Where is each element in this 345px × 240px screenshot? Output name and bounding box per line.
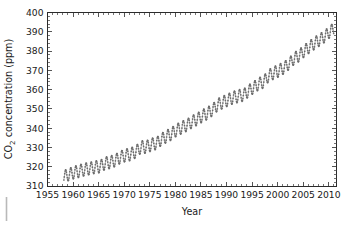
data-point xyxy=(198,112,200,114)
data-point xyxy=(86,167,88,169)
data-point xyxy=(289,63,291,65)
data-point xyxy=(160,145,162,147)
data-point xyxy=(91,163,93,165)
data-point xyxy=(112,163,114,165)
data-point xyxy=(78,174,80,176)
data-point xyxy=(140,150,142,152)
data-point xyxy=(301,49,303,51)
data-point xyxy=(278,70,280,72)
data-point xyxy=(311,39,313,41)
data-point xyxy=(199,116,201,118)
data-point xyxy=(217,101,219,103)
data-point xyxy=(233,94,235,96)
data-point xyxy=(268,72,270,74)
data-point xyxy=(134,157,136,159)
data-point xyxy=(78,176,80,178)
data-point xyxy=(189,125,191,127)
data-point xyxy=(130,157,132,159)
data-point xyxy=(216,108,218,110)
y-axis-title-suffix: concentration (ppm) xyxy=(3,39,14,141)
data-point xyxy=(111,155,113,157)
x-tick-label: 1965 xyxy=(87,189,111,200)
data-point xyxy=(332,28,334,30)
data-point xyxy=(278,73,280,75)
data-point xyxy=(133,154,135,156)
data-point xyxy=(277,76,279,78)
data-point xyxy=(263,84,265,86)
data-point xyxy=(109,162,111,164)
data-point xyxy=(324,39,326,41)
data-point xyxy=(74,172,76,174)
data-point xyxy=(127,153,129,155)
data-point xyxy=(161,136,163,138)
data-point xyxy=(69,171,71,173)
data-point xyxy=(156,143,158,145)
data-point xyxy=(79,171,81,173)
data-point xyxy=(280,65,282,67)
data-point xyxy=(271,76,273,78)
data-point xyxy=(253,84,255,86)
data-point xyxy=(189,122,191,124)
data-point xyxy=(325,32,327,34)
data-point xyxy=(107,161,109,163)
data-point xyxy=(302,54,304,56)
data-point xyxy=(63,176,65,178)
data-point xyxy=(254,80,256,82)
data-point xyxy=(65,169,67,171)
data-point xyxy=(281,70,283,72)
data-point xyxy=(296,55,298,57)
data-point xyxy=(148,147,150,149)
data-point xyxy=(141,144,143,146)
data-point xyxy=(227,100,229,102)
data-point xyxy=(260,81,262,83)
data-point xyxy=(330,28,332,30)
data-point xyxy=(298,58,300,60)
data-point xyxy=(247,96,249,98)
data-point xyxy=(128,156,130,158)
data-point xyxy=(270,70,272,72)
data-point xyxy=(268,79,270,81)
data-point xyxy=(87,170,89,172)
data-point xyxy=(318,45,320,47)
data-point xyxy=(185,130,187,132)
data-point xyxy=(153,140,155,142)
data-point xyxy=(212,106,214,108)
data-point xyxy=(94,170,96,172)
data-point xyxy=(250,88,252,90)
data-point xyxy=(316,37,318,39)
data-point xyxy=(155,148,157,150)
data-point xyxy=(314,46,316,48)
data-point xyxy=(286,64,288,66)
data-point xyxy=(194,119,196,121)
data-point xyxy=(66,174,68,176)
data-point xyxy=(188,118,190,120)
data-point xyxy=(191,122,193,124)
data-point xyxy=(86,165,88,167)
data-point xyxy=(71,169,73,171)
data-point xyxy=(204,110,206,112)
data-point xyxy=(178,123,180,125)
data-point xyxy=(225,100,227,102)
data-point xyxy=(190,127,192,129)
data-point xyxy=(288,66,290,68)
data-point xyxy=(256,87,258,89)
data-point xyxy=(191,125,193,127)
data-point xyxy=(89,165,91,167)
data-point xyxy=(227,103,229,105)
data-point xyxy=(121,150,123,152)
data-point xyxy=(196,122,198,124)
data-point xyxy=(266,79,268,81)
data-point xyxy=(186,128,188,130)
data-point xyxy=(89,171,91,173)
data-point xyxy=(313,48,315,50)
data-point xyxy=(272,78,274,80)
data-point xyxy=(219,97,221,99)
data-point xyxy=(101,161,103,163)
data-point xyxy=(153,145,155,147)
data-point xyxy=(183,122,185,124)
data-point xyxy=(332,30,334,32)
data-point xyxy=(235,95,237,97)
data-point xyxy=(94,167,96,169)
data-point xyxy=(242,95,244,97)
data-point xyxy=(303,54,305,56)
